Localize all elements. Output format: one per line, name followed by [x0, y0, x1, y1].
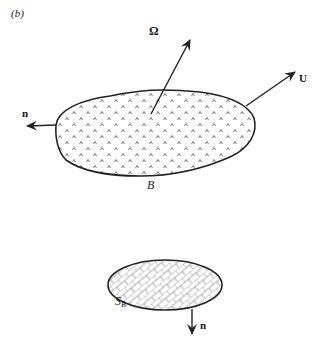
body-outline	[56, 90, 255, 176]
body-b	[56, 90, 255, 176]
n-body-arrow	[27, 125, 56, 126]
surface-label-sub: B	[121, 300, 126, 309]
velocity-u-label: U	[299, 73, 307, 84]
normal-body-label: n	[22, 108, 28, 119]
omega-label: Ω	[149, 25, 159, 37]
surface-sb-label: SB	[115, 295, 126, 309]
u-arrow	[246, 72, 295, 106]
panel-label: (b)	[11, 8, 24, 19]
body-b-label: B	[147, 179, 154, 191]
fluid-body-diagram: (b) Ω U n B SB n	[0, 0, 320, 346]
normal-surface-label: n	[200, 320, 206, 331]
diagram-canvas	[0, 0, 320, 346]
